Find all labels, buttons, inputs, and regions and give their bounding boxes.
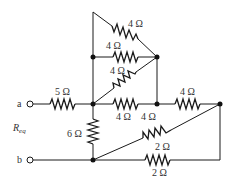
circuit-diagram: 4 Ω 4 Ω 4 Ω 5 Ω 4 Ω 4 Ω 4 Ω 6 Ω 2 Ω 2 Ω … <box>0 0 231 186</box>
node <box>91 158 96 163</box>
label-r-lower-diag: 4 Ω <box>110 65 125 76</box>
label-r-bottom-2: 2 Ω <box>152 167 167 178</box>
label-r-6: 6 Ω <box>67 128 82 139</box>
resistor-5 <box>33 99 93 109</box>
label-r-diag-2: 2 Ω <box>155 141 170 152</box>
resistor-6 <box>88 104 98 160</box>
resistor-middle-horizontal <box>93 52 157 62</box>
resistor-top-diagonal <box>93 12 157 57</box>
terminal-a <box>27 101 33 107</box>
label-r-5: 5 Ω <box>55 86 70 97</box>
node <box>218 102 223 107</box>
node <box>155 102 160 107</box>
label-r-top-right: 4 Ω <box>180 86 195 97</box>
resistor-lower-diagonal <box>93 57 157 104</box>
resistor-top-right <box>157 99 220 109</box>
label-r-top-diag: 4 Ω <box>128 18 143 29</box>
node <box>91 55 96 60</box>
resistor-bottom-2 <box>93 104 220 165</box>
node <box>155 55 160 60</box>
label-req: Req <box>12 122 26 135</box>
label-terminal-a: a <box>17 98 22 109</box>
node <box>91 102 96 107</box>
label-r-center: 4 Ω <box>116 111 131 122</box>
label-terminal-b: b <box>17 154 22 165</box>
label-r-right-node: 4 Ω <box>141 111 156 122</box>
terminal-b <box>27 157 33 163</box>
resistor-center-horizontal <box>93 99 157 109</box>
label-r-mid-horiz: 4 Ω <box>106 40 121 51</box>
